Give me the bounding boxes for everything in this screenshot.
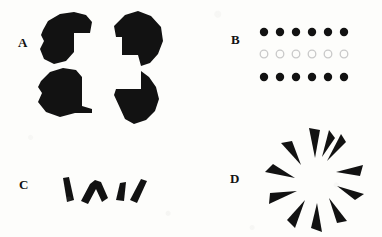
dot-hollow (308, 50, 316, 58)
dot-filled (324, 28, 332, 36)
dot-hollow (340, 50, 348, 58)
panel-label-a: A (18, 36, 27, 49)
panel-label-b: B (231, 33, 240, 46)
figure-canvas: A B (0, 0, 382, 237)
spike (336, 165, 363, 176)
dot-filled (260, 73, 268, 81)
dot-filled (276, 73, 284, 81)
dot-row-middle (260, 50, 348, 58)
panel-d-stimulus (265, 128, 365, 233)
spike-cluster (265, 128, 364, 232)
dot-row-bottom (260, 73, 348, 81)
dot-row-top (260, 28, 348, 36)
panel-c-stimulus (58, 176, 150, 210)
panel-b-stimulus (258, 26, 370, 92)
dot-filled (308, 73, 316, 81)
dot-hollow (292, 50, 300, 58)
inducer-top-right (114, 11, 163, 66)
stroke-fragment-4 (130, 179, 147, 203)
stroke-fragment-1 (63, 177, 74, 202)
dot-filled (340, 73, 348, 81)
panel-a-stimulus (30, 8, 175, 128)
dot-filled (260, 28, 268, 36)
spike (265, 164, 295, 178)
dot-hollow (276, 50, 284, 58)
dot-filled (308, 28, 316, 36)
inducer-bottom-left (38, 68, 92, 117)
spike (269, 191, 297, 204)
stroke-fragment-3 (116, 182, 126, 201)
dot-hollow (324, 50, 332, 58)
spike (311, 203, 322, 232)
inducer-bottom-right (114, 71, 159, 124)
dot-filled (292, 73, 300, 81)
panel-label-c: C (19, 178, 28, 191)
spike (337, 186, 364, 200)
spike (309, 128, 320, 158)
spike (287, 200, 305, 228)
panel-label-d: D (230, 172, 239, 185)
spike (281, 141, 301, 165)
dot-filled (292, 28, 300, 36)
dot-hollow (260, 50, 268, 58)
dot-filled (324, 73, 332, 81)
spike (329, 198, 347, 223)
inducer-top-left (40, 12, 92, 64)
dot-filled (340, 28, 348, 36)
dot-filled (276, 28, 284, 36)
stroke-fragment-2 (81, 180, 108, 204)
